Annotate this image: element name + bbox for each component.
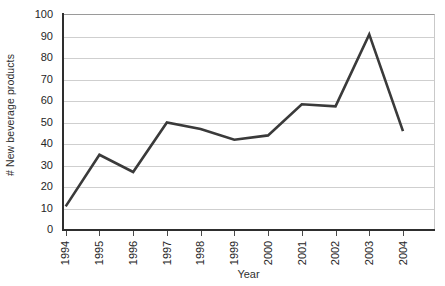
- line-chart-figure: # New beverage products 1009080706050403…: [0, 0, 445, 286]
- y-axis-tick-label: 50: [19, 116, 53, 128]
- y-axis-tick-label: 90: [19, 30, 53, 42]
- y-axis-tick-label: 80: [19, 51, 53, 63]
- x-axis-tick-label: 1994: [49, 236, 83, 270]
- x-axis-tick-label: 2003: [352, 236, 386, 270]
- y-axis-tick-label: 70: [19, 73, 53, 85]
- x-axis-tick-label-text: 1999: [217, 241, 251, 265]
- x-axis-tick-label: 2001: [285, 236, 319, 270]
- x-axis-tick-labels: 1994199519961997199819992000200120022003…: [63, 236, 434, 270]
- x-axis-tick-label: 2004: [386, 236, 420, 270]
- y-axis-tick-label: 10: [19, 202, 53, 214]
- y-axis-title: # New beverage products: [0, 0, 20, 229]
- data-series-line: [63, 15, 434, 230]
- y-axis-tick-label: 40: [19, 137, 53, 149]
- x-axis-tick-label-text: 1994: [49, 241, 83, 265]
- x-axis-tick-label-text: 2004: [386, 241, 420, 265]
- x-axis-tick-label: 1996: [116, 236, 150, 270]
- x-axis-title-text: Year: [237, 268, 259, 280]
- x-axis-tick-label-text: 2003: [352, 241, 386, 265]
- y-axis-tick-label: 0: [19, 223, 53, 235]
- x-axis-tick-label-text: 1998: [184, 241, 218, 265]
- y-axis-tick-labels: 1009080706050403020100: [20, 0, 58, 243]
- y-axis-title-text: # New beverage products: [4, 54, 16, 176]
- x-axis-tick-label-text: 1996: [116, 241, 150, 265]
- x-axis-title: Year: [63, 268, 434, 280]
- series-polyline: [66, 34, 403, 206]
- x-axis-tick-label: 1995: [82, 236, 116, 270]
- y-axis-tick-label: 100: [19, 8, 53, 20]
- y-axis-tick-label: 60: [19, 94, 53, 106]
- x-axis-tick-label: 1997: [150, 236, 184, 270]
- y-axis-tick-label: 30: [19, 159, 53, 171]
- x-axis-tick-label: 2002: [319, 236, 353, 270]
- y-axis-tick-label: 20: [19, 180, 53, 192]
- x-axis-tick-label: 2000: [251, 236, 285, 270]
- y-axis-line: [62, 13, 64, 231]
- x-axis-tick-label: 1998: [184, 236, 218, 270]
- plot-area: [63, 14, 435, 230]
- x-axis-tick-label-text: 1995: [82, 241, 116, 265]
- x-axis-tick-label-text: 2002: [319, 241, 353, 265]
- x-axis-tick-label-text: 2000: [251, 241, 285, 265]
- x-axis-tick-label-text: 2001: [285, 241, 319, 265]
- x-axis-tick-label: 1999: [217, 236, 251, 270]
- x-axis-tick-label-text: 1997: [150, 241, 184, 265]
